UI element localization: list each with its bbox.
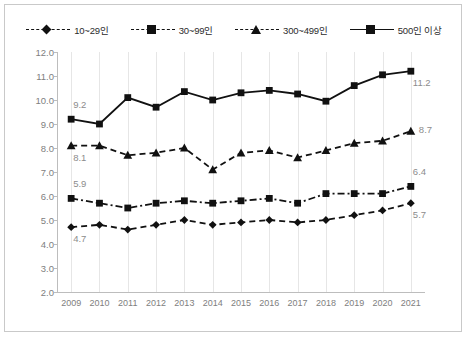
data-point	[67, 223, 75, 231]
data-point	[96, 200, 103, 207]
data-point	[266, 195, 273, 202]
data-point	[407, 183, 414, 190]
data-point	[407, 68, 414, 75]
legend-item-300-499: 300~499인	[235, 23, 328, 37]
data-point	[181, 197, 188, 204]
data-point	[180, 216, 188, 224]
data-point	[379, 190, 386, 197]
chart-figure: 10~29인 30~99인 300~499인 500인 이상 12.011.01…	[0, 0, 468, 337]
y-axis-labels: 12.011.010.09.08.07.06.05.04.03.02.0	[16, 52, 54, 292]
legend-marker-square-solid-icon	[350, 24, 394, 36]
data-point	[208, 165, 217, 173]
y-axis-tick-label: 10.0	[20, 95, 54, 106]
data-point	[153, 104, 160, 111]
data-point	[124, 226, 132, 234]
legend-label: 300~499인	[283, 23, 328, 37]
legend-marker-diamond-dashed-icon	[26, 24, 70, 36]
data-point	[237, 219, 245, 227]
chart-lines	[57, 52, 425, 292]
data-label-300-start: 8.1	[73, 152, 86, 163]
legend-item-500-plus: 500인 이상	[350, 23, 442, 37]
data-label-30-end: 6.4	[413, 166, 426, 177]
x-axis-labels: 2009201020112012201320142015201620172018…	[57, 296, 425, 314]
data-point	[209, 200, 216, 207]
y-axis-tick-label: 11.0	[20, 71, 54, 82]
data-label-10-end: 5.7	[413, 209, 426, 220]
data-point	[68, 116, 75, 123]
data-point	[238, 197, 245, 204]
chart-legend: 10~29인 30~99인 300~499인 500인 이상	[0, 20, 468, 40]
data-point	[323, 98, 330, 105]
data-point	[237, 148, 246, 156]
data-point	[209, 97, 216, 104]
data-point	[406, 127, 415, 135]
data-point	[180, 144, 189, 152]
series-line-1	[71, 186, 411, 208]
data-point	[265, 146, 274, 154]
legend-marker-square-dashdot-icon	[131, 24, 175, 36]
plot-area: 9.28.15.94.711.28.76.45.7	[57, 52, 425, 292]
data-point	[266, 87, 273, 94]
data-point	[379, 207, 387, 215]
data-point	[124, 205, 131, 212]
data-point	[265, 216, 273, 224]
data-point	[407, 199, 415, 207]
legend-label: 30~99인	[179, 23, 213, 37]
x-axis-tick-label: 2021	[391, 298, 431, 308]
data-point	[96, 121, 103, 128]
data-point	[294, 200, 301, 207]
data-point	[294, 91, 301, 98]
y-axis-tick-label: 3.0	[20, 263, 54, 274]
data-point	[124, 94, 131, 101]
series-line-3	[71, 71, 411, 124]
y-axis-tick-label: 7.0	[20, 167, 54, 178]
data-label-500-start: 9.2	[73, 99, 86, 110]
legend-label: 10~29인	[74, 23, 108, 37]
legend-item-30-99: 30~99인	[131, 23, 213, 37]
data-point	[351, 190, 358, 197]
data-point	[153, 200, 160, 207]
x-axis-line	[57, 292, 425, 293]
data-point	[68, 195, 75, 202]
data-label-30-start: 5.9	[73, 178, 86, 189]
data-point	[209, 221, 217, 229]
data-point	[322, 216, 330, 224]
legend-marker-triangle-dashed-icon	[235, 24, 279, 36]
data-point	[238, 89, 245, 96]
data-point	[351, 82, 358, 89]
legend-label: 500인 이상	[398, 23, 442, 37]
data-point	[96, 221, 104, 229]
y-axis-tick-label: 2.0	[20, 287, 54, 298]
y-axis-tick-label: 9.0	[20, 119, 54, 130]
y-axis-tick-label: 4.0	[20, 239, 54, 250]
data-point	[294, 219, 302, 227]
data-point	[350, 211, 358, 219]
y-axis-tick-label: 5.0	[20, 215, 54, 226]
data-point	[323, 190, 330, 197]
data-point	[152, 221, 160, 229]
y-axis-tick-label: 6.0	[20, 191, 54, 202]
data-point	[379, 71, 386, 78]
y-axis-tick-label: 8.0	[20, 143, 54, 154]
data-label-500-end: 11.2	[413, 77, 431, 88]
data-label-10-start: 4.7	[73, 233, 86, 244]
data-point	[181, 88, 188, 95]
legend-item-10-29: 10~29인	[26, 23, 108, 37]
data-label-300-end: 8.7	[419, 124, 432, 135]
y-axis-tick-label: 12.0	[20, 47, 54, 58]
